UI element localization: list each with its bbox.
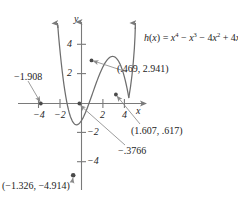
- point-x-intercept-near-origin: [78, 102, 82, 106]
- x-tick-label-4: 4: [122, 110, 127, 120]
- equation-operator3: +: [220, 32, 231, 43]
- point-local-minimum-right: [114, 93, 118, 97]
- function-plot: [0, 0, 238, 198]
- y-axis-label: y: [74, 14, 78, 24]
- point-local-maximum: [90, 59, 94, 63]
- graph-figure: x y −4 −2 2 4 4 2 −2 −4 h(x) = x4 − x3 −…: [0, 0, 238, 198]
- leader-local-minimum-left: [72, 178, 73, 183]
- y-tick-label-2: 2: [67, 68, 72, 78]
- y-tick-label-neg4: −4: [87, 156, 99, 166]
- annotation-x-intercept-near-origin: −.3766: [118, 146, 146, 156]
- x-axis-label: x: [136, 106, 140, 116]
- annotation-local-maximum: (.469, 2.941): [117, 64, 169, 74]
- x-tick-label-2: 2: [100, 110, 105, 120]
- leader-x-intercept-left: [28, 81, 40, 102]
- point-x-intercept-left: [39, 102, 43, 106]
- point-local-minimum-left: [71, 173, 76, 178]
- curve-left-arrow: [57, 23, 58, 28]
- annotation-local-minimum-left: (−1.326, −4.914): [2, 181, 70, 191]
- annotation-x-intercept-left: −1.908: [14, 72, 42, 82]
- annotation-local-minimum-right: (1.607, .617): [131, 126, 183, 136]
- equation-term4-base: x: [236, 32, 238, 43]
- function-equation: h(x) = x4 − x3 − 4x2 + 4x + 2: [144, 32, 238, 43]
- equation-operator2: −: [197, 32, 208, 43]
- x-tick-label-neg2: −2: [54, 110, 66, 120]
- equation-equals: =: [160, 32, 171, 43]
- x-tick-label-neg4: −4: [33, 110, 45, 120]
- y-tick-label-neg2: −2: [87, 127, 99, 137]
- equation-operator1: −: [178, 32, 189, 43]
- y-tick-label-4: 4: [67, 39, 72, 49]
